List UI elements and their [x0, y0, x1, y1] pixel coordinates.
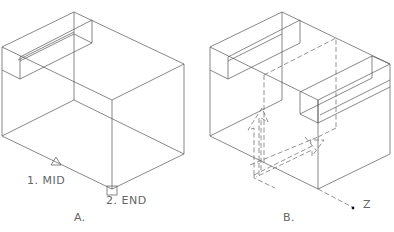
axis-label-z: Z — [363, 198, 371, 211]
marker-label-end: 2. END — [106, 194, 147, 207]
z-point-icon — [352, 207, 355, 210]
marker-label-mid: 1. MID — [27, 174, 65, 187]
box-b-wireframe — [210, 12, 390, 207]
panel-b-drawing — [0, 0, 394, 232]
panel-b-caption: B. — [283, 211, 295, 224]
panel-a-caption: A. — [74, 211, 86, 224]
